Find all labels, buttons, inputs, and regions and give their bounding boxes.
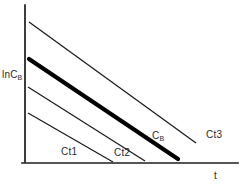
series-label-ct3: Ct3 — [206, 130, 222, 140]
series-line-ct3 — [29, 22, 196, 143]
series-label-ct2: Ct2 — [114, 148, 130, 158]
series-line-cb — [29, 59, 178, 159]
plot-canvas — [0, 0, 244, 187]
series-label-ct1: Ct1 — [61, 147, 77, 157]
y-axis-label-text: lnC — [2, 69, 18, 80]
figure-container: lnCB t Ct1 Ct2 CB Ct3 — [0, 0, 244, 187]
y-axis-label: lnCB — [2, 70, 22, 80]
x-axis-label: t — [214, 171, 217, 181]
series-label-cb: CB — [152, 131, 164, 141]
series-label-cb-subscript: B — [159, 135, 164, 142]
y-axis-label-subscript: B — [18, 74, 23, 81]
